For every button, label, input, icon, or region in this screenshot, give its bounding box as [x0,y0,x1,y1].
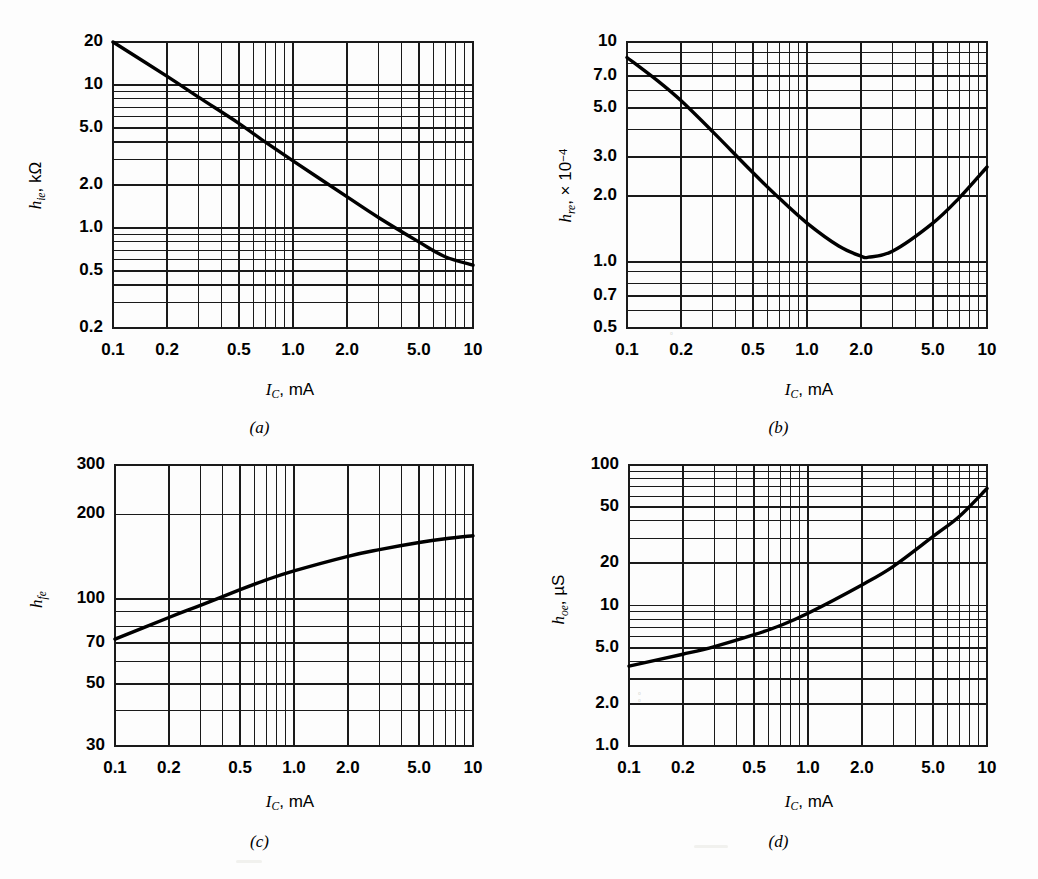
y-tick-label: 5.0 [549,97,617,117]
x-tick-label: 0.2 [649,340,713,360]
y-tick-label: 1.0 [551,735,619,755]
y-tick-label: 200 [37,503,105,523]
y-tick-label: 3.0 [549,146,617,166]
panel-caption-d: (d) [519,832,1038,852]
x-axis-symbol-a: IC [266,380,279,399]
y-tick-label: 50 [37,673,105,693]
y-tick-label: 100 [551,454,619,474]
y-tick-label: 10 [551,595,619,615]
chart-panel-c: hfe IC, mA (c) 3050701002003000.10.20.51… [0,424,519,879]
y-tick-label: 20 [35,31,103,51]
paper-speck-1 [236,860,262,863]
y-tick-label: 0.7 [549,285,617,305]
y-tick-label: 30 [37,735,105,755]
panel-caption-c: (c) [0,832,519,852]
y-tick-label: 10 [35,74,103,94]
x-axis-title-b: IC, mA [709,380,909,401]
y-tick-label: 1.0 [549,251,617,271]
y-tick-label: 7.0 [549,65,617,85]
x-tick-label: 10 [441,340,505,360]
y-tick-label: 100 [37,588,105,608]
x-axis-unit-a: , mA [279,380,314,399]
chart-panel-b: hre, × 10−4 IC, mA (b) 0.50.71.02.03.05.… [519,0,1038,440]
x-axis-unit-b: , mA [798,380,833,399]
x-axis-title-c: IC, mA [190,792,390,813]
y-tick-label: 20 [551,552,619,572]
y-tick-label: 5.0 [35,117,103,137]
y-tick-label: 0.5 [35,260,103,280]
y-tick-label: 50 [551,496,619,516]
y-axis-symbol-b: hre [556,205,575,223]
x-tick-label: 10 [441,758,505,778]
x-axis-symbol-d: IC [785,792,798,811]
x-tick-label: 2.0 [316,758,380,778]
chart-panel-d: hoe, µS IC, mA (d) 1.02.05.01020501000.1… [519,424,1038,879]
y-tick-label: 0.5 [549,317,617,337]
x-tick-label: 0.2 [135,340,199,360]
y-tick-label: 10 [549,31,617,51]
x-tick-label: 10 [955,340,1019,360]
x-axis-unit-d: , mA [798,792,833,811]
y-tick-label: 1.0 [35,217,103,237]
figure-page: hie, kΩ IC, mA (a) 0.20.51.02.05.010200.… [0,0,1038,879]
x-tick-label: 2.0 [315,340,379,360]
x-axis-title-d: IC, mA [709,792,909,813]
y-tick-label: 5.0 [551,637,619,657]
x-tick-label: 0.2 [651,758,715,778]
chart-panel-a: hie, kΩ IC, mA (a) 0.20.51.02.05.010200.… [0,0,519,440]
y-tick-label: 2.0 [35,174,103,194]
x-tick-label: 2.0 [829,340,893,360]
paper-speck-2 [694,845,728,848]
y-tick-label: 0.2 [35,317,103,337]
x-tick-label: 2.0 [830,758,894,778]
y-tick-label: 2.0 [551,693,619,713]
x-axis-symbol-b: IC [785,380,798,399]
y-tick-label: 2.0 [549,185,617,205]
x-tick-label: 0.2 [137,758,201,778]
x-axis-symbol-c: IC [266,792,279,811]
y-tick-label: 300 [37,454,105,474]
x-axis-title-a: IC, mA [190,380,390,401]
y-tick-label: 70 [37,632,105,652]
x-axis-unit-c: , mA [279,792,314,811]
x-tick-label: 10 [955,758,1019,778]
y-axis-symbol-a: hie [26,193,45,210]
